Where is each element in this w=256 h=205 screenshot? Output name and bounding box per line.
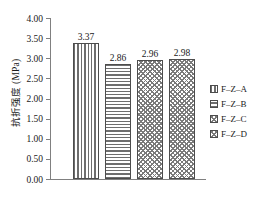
bar-f-z-d[interactable]: 2.98 [169, 59, 195, 179]
y-axis-tick: 1.50 [46, 119, 50, 120]
bar-value-label: 2.86 [110, 53, 127, 63]
legend-item-f-z-c[interactable]: F–Z–C [210, 114, 247, 124]
legend-swatch-icon [210, 100, 218, 108]
legend-item-label: F–Z–A [221, 84, 247, 94]
legend-swatch-icon [210, 130, 218, 138]
bar-value-label: 2.98 [174, 48, 191, 58]
y-axis-tick: 0.50 [46, 159, 50, 160]
x-axis-line [50, 179, 206, 180]
y-axis-tick-label: 4.00 [26, 14, 43, 24]
y-axis-tick-label: 3.00 [26, 54, 43, 64]
y-axis-tick: 4.00 [46, 18, 50, 19]
legend-item-f-z-b[interactable]: F–Z–B [210, 99, 247, 109]
bar-f-z-c[interactable]: 2.96 [137, 60, 163, 179]
y-axis-tick-label: 0.00 [26, 175, 43, 185]
y-axis-tick: 2.00 [46, 99, 50, 100]
y-axis-tick-label: 2.50 [26, 74, 43, 84]
y-axis-tick: 0.00 [46, 179, 50, 180]
plot-area: 4.00 3.50 3.00 2.50 2.00 1.50 1.00 0.50 … [50, 18, 206, 180]
legend-item-f-z-d[interactable]: F–Z–D [210, 129, 247, 139]
y-axis-tick-label: 1.50 [26, 114, 43, 124]
legend-item-label: F–Z–D [221, 129, 247, 139]
legend-swatch-icon [210, 85, 218, 93]
y-axis-tick: 3.00 [46, 58, 50, 59]
legend-item-f-z-a[interactable]: F–Z–A [210, 84, 247, 94]
legend-item-label: F–Z–B [221, 99, 247, 109]
y-axis-tick-label: 1.00 [26, 134, 43, 144]
y-axis-tick-label: 3.50 [26, 34, 43, 44]
y-axis-line [50, 18, 51, 180]
legend: F–Z–A F–Z–B F–Z–C F–Z–D [210, 84, 247, 139]
y-axis-tick-label: 0.50 [26, 154, 43, 164]
bar-f-z-b[interactable]: 2.86 [105, 64, 131, 179]
legend-swatch-icon [210, 115, 218, 123]
y-axis-tick-label: 2.00 [26, 94, 43, 104]
bar-value-label: 2.96 [142, 49, 159, 59]
y-axis-tick: 2.50 [46, 78, 50, 79]
bar-f-z-a[interactable]: 3.37 [73, 43, 99, 179]
bar-value-label: 3.37 [78, 32, 95, 42]
bar-chart-figure: 抗折强度 (MPa) 4.00 3.50 3.00 2.50 2.00 1.50… [0, 0, 256, 205]
legend-item-label: F–Z–C [221, 114, 247, 124]
y-axis-tick: 3.50 [46, 38, 50, 39]
y-axis-label: 抗折强度 (MPa) [8, 45, 22, 141]
y-axis-tick: 1.00 [46, 139, 50, 140]
